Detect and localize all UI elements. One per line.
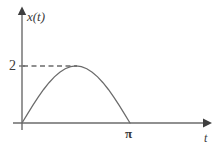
x-tick-label-pi: π <box>125 127 132 140</box>
y-axis-arrow-icon <box>18 7 26 16</box>
y-tick-label-2: 2 <box>9 59 16 73</box>
x-axis-label: t <box>204 132 207 144</box>
plot-figure: x(t) t 2 π <box>0 0 219 149</box>
y-axis <box>18 7 26 131</box>
x-axis-arrow-icon <box>203 119 212 128</box>
x-axis <box>13 119 212 128</box>
signal-curve <box>22 66 130 123</box>
y-axis-label: x(t) <box>27 10 45 23</box>
